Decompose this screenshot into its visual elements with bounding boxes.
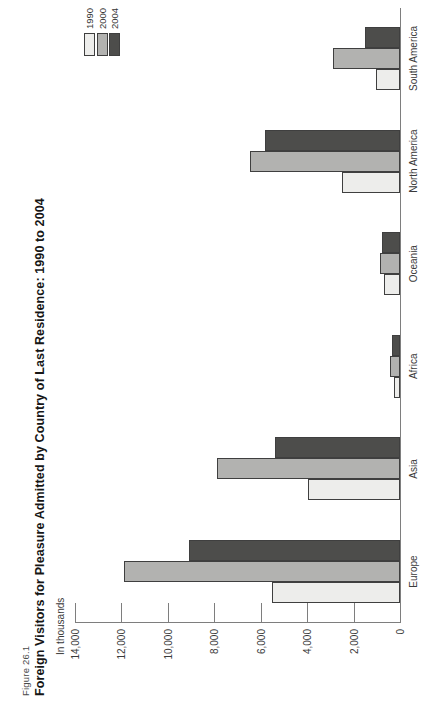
bar-oceania-2004 bbox=[382, 232, 400, 253]
legend-label-2000: 2000 bbox=[97, 8, 108, 29]
scanned-page: Figure 26.1 Foreign Visitors for Pleasur… bbox=[0, 0, 436, 702]
bar-asia-2004 bbox=[275, 437, 400, 458]
bar-south-america-2000 bbox=[333, 48, 400, 69]
legend-swatch-2004 bbox=[109, 33, 120, 56]
tick-label-4-000: 4,000 bbox=[301, 629, 314, 677]
legend: 199020002004 bbox=[84, 8, 122, 56]
axis-tick-10-000 bbox=[168, 603, 169, 623]
axis-tick-2-000 bbox=[354, 603, 355, 623]
axis-unit-label: In thousands bbox=[55, 598, 66, 655]
category-label-africa: Africa bbox=[407, 311, 420, 421]
legend-label-2004: 2004 bbox=[109, 8, 120, 29]
tick-label-14-000: 14,000 bbox=[69, 629, 82, 677]
tick-label-0: 0 bbox=[394, 629, 407, 677]
axis-tick-12-000 bbox=[121, 603, 122, 623]
value-axis-line bbox=[75, 622, 400, 623]
legend-swatch-1990 bbox=[84, 33, 95, 56]
bar-asia-1990 bbox=[308, 479, 400, 500]
category-label-asia: Asia bbox=[407, 414, 420, 524]
bar-europe-2000 bbox=[124, 561, 400, 582]
bar-south-america-2004 bbox=[365, 27, 400, 48]
bar-oceania-2000 bbox=[380, 253, 400, 274]
bar-north-america-2000 bbox=[250, 151, 400, 172]
figure-number: Figure 26.1 bbox=[20, 646, 31, 696]
category-axis-baseline bbox=[400, 8, 401, 623]
category-label-oceania: Oceania bbox=[407, 209, 420, 319]
tick-label-2-000: 2,000 bbox=[348, 629, 361, 677]
category-label-north-america: North America bbox=[407, 106, 420, 216]
bar-africa-1990 bbox=[394, 377, 400, 398]
axis-tick-0 bbox=[400, 603, 401, 623]
bar-europe-1990 bbox=[272, 582, 400, 603]
tick-label-10-000: 10,000 bbox=[162, 629, 175, 677]
figure-title: Foreign Visitors for Pleasure Admitted b… bbox=[33, 198, 47, 696]
bar-africa-2004 bbox=[392, 335, 400, 356]
category-label-south-america: South America bbox=[407, 4, 420, 114]
bar-north-america-1990 bbox=[342, 172, 400, 193]
bar-europe-2004 bbox=[189, 540, 400, 561]
bar-south-america-1990 bbox=[376, 69, 400, 90]
tick-label-6-000: 6,000 bbox=[255, 629, 268, 677]
bar-asia-2000 bbox=[217, 458, 400, 479]
category-label-europe: Europe bbox=[407, 517, 420, 627]
axis-tick-8-000 bbox=[214, 603, 215, 623]
tick-label-12-000: 12,000 bbox=[115, 629, 128, 677]
legend-row-2000: 2000 bbox=[97, 8, 108, 56]
bar-oceania-1990 bbox=[384, 274, 400, 295]
legend-swatch-2000 bbox=[97, 33, 108, 56]
axis-tick-14-000 bbox=[75, 603, 76, 623]
legend-label-1990: 1990 bbox=[84, 8, 95, 29]
bar-north-america-2004 bbox=[265, 130, 400, 151]
chart-canvas-rotated: Figure 26.1 Foreign Visitors for Pleasur… bbox=[0, 0, 436, 702]
axis-tick-6-000 bbox=[261, 603, 262, 623]
axis-tick-4-000 bbox=[307, 603, 308, 623]
legend-row-1990: 1990 bbox=[84, 8, 95, 56]
tick-label-8-000: 8,000 bbox=[208, 629, 221, 677]
bar-africa-2000 bbox=[390, 356, 400, 377]
legend-row-2004: 2004 bbox=[109, 8, 120, 56]
